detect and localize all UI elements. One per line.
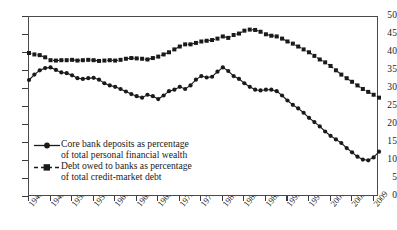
data-point-marker bbox=[355, 155, 359, 159]
data-point-marker bbox=[366, 158, 370, 162]
data-point-marker bbox=[307, 50, 311, 54]
data-point-marker bbox=[334, 137, 338, 141]
data-point-marker bbox=[269, 88, 273, 92]
data-point-marker bbox=[215, 70, 219, 74]
data-point-marker bbox=[124, 57, 128, 61]
data-point-marker bbox=[377, 150, 381, 154]
data-point-marker bbox=[307, 116, 311, 120]
data-point-marker bbox=[48, 65, 52, 69]
data-point-marker bbox=[162, 93, 166, 97]
data-point-marker bbox=[302, 111, 306, 115]
data-point-marker bbox=[275, 34, 279, 38]
data-point-marker bbox=[59, 58, 63, 62]
legend-label-core-bank-deposits: Core bank deposits as percentage of tota… bbox=[61, 139, 189, 160]
data-point-marker bbox=[253, 28, 257, 32]
data-point-marker bbox=[92, 76, 96, 80]
legend-item-core-bank-deposits: Core bank deposits as percentage of tota… bbox=[33, 139, 263, 160]
data-point-marker bbox=[226, 36, 230, 40]
legend-label-line1: Debt owed to banks as percentage bbox=[61, 160, 192, 171]
data-point-marker bbox=[280, 37, 284, 41]
data-point-marker bbox=[237, 32, 241, 36]
data-point-marker bbox=[221, 34, 225, 38]
data-point-marker bbox=[323, 60, 327, 64]
data-point-marker bbox=[43, 66, 47, 70]
chart-legend: Core bank deposits as percentage of tota… bbox=[33, 139, 263, 183]
data-point-marker bbox=[113, 59, 117, 63]
data-point-marker bbox=[108, 83, 112, 87]
data-point-marker bbox=[318, 57, 322, 61]
data-point-marker bbox=[178, 45, 182, 49]
data-point-marker bbox=[264, 32, 268, 36]
data-point-marker bbox=[296, 45, 300, 49]
data-point-marker bbox=[253, 88, 257, 92]
data-point-marker bbox=[156, 97, 160, 101]
data-point-marker bbox=[355, 83, 359, 87]
data-point-marker bbox=[259, 30, 263, 34]
data-point-marker bbox=[188, 83, 192, 87]
data-point-marker bbox=[291, 42, 295, 46]
data-point-marker bbox=[140, 57, 144, 61]
data-point-marker bbox=[199, 74, 203, 78]
data-point-marker bbox=[339, 141, 343, 145]
data-point-marker bbox=[258, 88, 262, 92]
data-point-marker bbox=[210, 75, 214, 79]
data-point-marker bbox=[86, 76, 90, 80]
legend-key-square-dashed bbox=[33, 162, 61, 173]
data-point-marker bbox=[210, 38, 214, 42]
data-point-marker bbox=[312, 54, 316, 58]
data-point-marker bbox=[70, 58, 74, 62]
data-point-marker bbox=[226, 69, 230, 73]
data-point-marker bbox=[140, 96, 144, 100]
data-point-marker bbox=[145, 57, 149, 61]
data-point-marker bbox=[70, 73, 74, 77]
data-point-marker bbox=[296, 106, 300, 110]
data-point-marker bbox=[167, 89, 171, 93]
data-point-marker bbox=[27, 51, 31, 55]
data-point-marker bbox=[172, 88, 176, 92]
data-point-marker bbox=[334, 68, 338, 72]
data-point-marker bbox=[318, 124, 322, 128]
legend-item-debt-owed-to-banks: Debt owed to banks as percentage of tota… bbox=[33, 161, 263, 182]
data-point-marker bbox=[81, 77, 85, 81]
data-point-marker bbox=[302, 47, 306, 51]
data-point-marker bbox=[345, 146, 349, 150]
data-point-marker bbox=[323, 129, 327, 133]
data-point-marker bbox=[232, 33, 236, 37]
data-point-marker bbox=[285, 39, 289, 43]
data-point-marker bbox=[65, 58, 69, 62]
data-point-marker bbox=[97, 78, 101, 82]
data-point-marker bbox=[65, 71, 69, 75]
data-point-marker bbox=[86, 58, 90, 62]
data-point-marker bbox=[264, 88, 268, 92]
data-point-marker bbox=[372, 155, 376, 159]
data-point-marker bbox=[339, 73, 343, 77]
data-point-marker bbox=[81, 58, 85, 62]
data-point-marker bbox=[113, 85, 117, 89]
data-point-marker bbox=[75, 76, 79, 80]
data-point-marker bbox=[183, 87, 187, 91]
data-point-marker bbox=[119, 58, 123, 62]
data-point-marker bbox=[205, 39, 209, 43]
data-point-marker bbox=[366, 90, 370, 94]
data-point-marker bbox=[312, 120, 316, 124]
data-point-marker bbox=[54, 68, 58, 72]
data-point-marker bbox=[291, 103, 295, 107]
data-point-marker bbox=[242, 81, 246, 85]
data-point-marker bbox=[162, 52, 166, 56]
data-point-marker bbox=[242, 29, 246, 33]
data-point-marker bbox=[32, 73, 36, 77]
data-point-marker bbox=[38, 53, 42, 57]
data-point-marker bbox=[189, 42, 193, 46]
data-point-marker bbox=[275, 89, 279, 93]
data-point-marker bbox=[372, 93, 376, 97]
data-point-marker bbox=[43, 55, 47, 59]
data-point-marker bbox=[102, 59, 106, 63]
data-point-marker bbox=[118, 87, 122, 91]
data-point-marker bbox=[92, 58, 96, 62]
legend-label-line2: of total personal financial wealth bbox=[61, 150, 189, 161]
data-point-marker bbox=[350, 150, 354, 154]
data-point-marker bbox=[102, 81, 106, 85]
data-point-marker bbox=[172, 47, 176, 51]
data-point-marker bbox=[108, 58, 112, 62]
legend-label-debt-owed-to-banks: Debt owed to banks as percentage of tota… bbox=[61, 161, 192, 182]
